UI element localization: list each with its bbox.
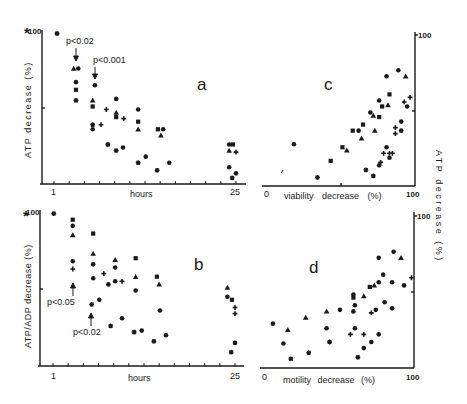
star-marker: [355, 355, 360, 360]
diamond-marker: [399, 128, 404, 133]
diamond-marker: [377, 163, 382, 168]
diamond-marker: [225, 294, 230, 299]
panel-a-x-tick-1: 1: [51, 187, 56, 197]
diamond-marker: [271, 321, 276, 326]
plus-marker: [393, 131, 398, 136]
plus-marker: [121, 116, 126, 121]
diamond-marker: [164, 333, 169, 338]
figure-canvas: [0, 0, 467, 404]
diamond-marker: [384, 74, 389, 79]
triangle-marker: [398, 255, 404, 260]
triangle-marker: [71, 66, 77, 71]
panel-b-x-tick-25: 25: [230, 371, 240, 381]
square-marker: [368, 285, 372, 289]
diamond-marker: [390, 280, 395, 285]
panel-a-annotation-p0001: p<0.001: [93, 55, 126, 65]
diamond-marker: [399, 119, 404, 124]
star-marker: [327, 340, 332, 345]
square-marker: [91, 104, 95, 108]
square-marker: [387, 92, 391, 96]
triangle-marker: [371, 283, 377, 288]
diamond-marker: [227, 142, 232, 147]
diamond-marker: [292, 142, 297, 147]
panel-c-x-tick-0: 0: [264, 189, 269, 199]
diamond-marker: [234, 171, 239, 176]
diamond-marker: [387, 156, 392, 161]
triangle-marker: [112, 257, 118, 262]
square-marker: [155, 275, 159, 279]
panel-d-x-label: motility decrease (%): [283, 375, 375, 385]
square-marker: [136, 120, 140, 124]
plus-marker: [381, 151, 386, 156]
plus-marker: [408, 95, 413, 100]
triangle-marker: [359, 135, 365, 140]
diamond-marker: [382, 300, 387, 305]
square-marker: [380, 104, 384, 108]
star-marker: [151, 339, 156, 344]
diamond-marker: [353, 303, 358, 308]
diamond-marker: [376, 256, 381, 261]
square-marker: [351, 129, 355, 133]
star-marker: [132, 330, 137, 335]
diamond-marker: [91, 262, 96, 267]
triangle-marker: [324, 309, 330, 314]
plus-marker: [409, 275, 414, 280]
diamond-marker: [377, 98, 382, 103]
star-marker: [288, 356, 293, 361]
diamond-marker: [167, 160, 172, 165]
square-marker: [361, 123, 365, 127]
diamond-marker: [76, 66, 81, 71]
triangle-marker: [372, 128, 378, 133]
triangle-marker: [385, 102, 391, 107]
square-marker: [230, 298, 234, 302]
triangle-marker: [344, 147, 350, 152]
panel-c-x-tick-100: 100: [406, 190, 419, 199]
panel-a-annotation-p002: p<0.02: [66, 36, 94, 46]
star-marker: [364, 168, 369, 173]
plus-marker: [233, 305, 238, 310]
square-marker: [156, 127, 160, 131]
diamond-marker: [384, 145, 389, 150]
diamond-marker: [351, 309, 356, 314]
triangle-marker: [90, 251, 96, 256]
diamond-marker: [356, 128, 361, 133]
diamond-marker: [381, 272, 386, 277]
square-marker: [114, 115, 118, 119]
triangle-marker: [133, 274, 139, 279]
diamond-marker: [91, 276, 96, 281]
diamond-marker: [158, 308, 163, 313]
panel-a-label: a: [197, 75, 206, 95]
panel-a-x-tick-25: 25: [230, 187, 240, 197]
plus-marker: [390, 151, 395, 156]
diamond-marker: [405, 104, 410, 109]
diamond-marker: [133, 288, 138, 293]
plus-marker: [402, 100, 407, 105]
diamond-marker: [121, 145, 126, 150]
diamond-marker: [161, 127, 166, 132]
diamond-marker: [143, 154, 148, 159]
plus-marker: [70, 267, 75, 272]
plus-marker: [99, 122, 104, 127]
star-marker: [315, 175, 320, 180]
plus-marker: [361, 332, 366, 337]
diamond-marker: [390, 306, 395, 311]
square-marker: [377, 115, 381, 119]
triangle-marker: [135, 126, 141, 131]
plus-marker: [369, 311, 374, 316]
plus-marker: [120, 279, 125, 284]
diamond-marker: [391, 249, 396, 254]
triangle-marker: [158, 133, 164, 138]
triangle-marker: [303, 315, 309, 320]
square-marker: [340, 145, 344, 149]
diamond-marker: [97, 297, 102, 302]
triangle-marker: [156, 282, 162, 287]
star-marker: [114, 148, 119, 153]
star-marker: [74, 98, 79, 103]
diamond-marker: [362, 346, 367, 351]
right-y-label: ATP decrease (%): [434, 150, 444, 263]
diamond-marker: [74, 80, 79, 85]
panel-d-x-tick-0: 0: [262, 372, 267, 382]
panel-b-x-tick-1: 1: [51, 371, 56, 381]
diamond-marker: [369, 340, 374, 345]
triangle-marker: [225, 285, 231, 290]
